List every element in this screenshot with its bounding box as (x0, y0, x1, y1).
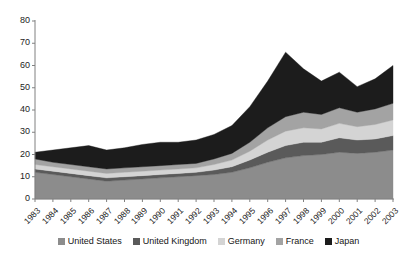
chart-figure: 01020304050607080 1983198419851986198719… (0, 0, 417, 264)
legend-item: United States (58, 236, 122, 246)
legend-swatch-icon (58, 238, 65, 245)
legend-swatch-icon (325, 238, 332, 245)
y-axis-tick-label: 20 (6, 150, 30, 159)
plot-area: 01020304050607080 1983198419851986198719… (0, 0, 417, 212)
stacked-area-chart (0, 0, 417, 212)
legend-swatch-icon (218, 238, 225, 245)
legend-label: United States (68, 236, 122, 246)
legend-swatch-icon (276, 238, 283, 245)
y-axis-tick-label: 10 (6, 172, 30, 181)
legend-swatch-icon (133, 238, 140, 245)
legend-label: France (286, 236, 314, 246)
y-axis-tick-label: 50 (6, 83, 30, 92)
y-axis-tick-label: 60 (6, 61, 30, 70)
legend-label: United Kingdom (143, 236, 207, 246)
y-axis-tick-label: 40 (6, 105, 30, 114)
y-axis-tick-label: 70 (6, 38, 30, 47)
y-axis-tick-label: 30 (6, 127, 30, 136)
legend-item: Japan (325, 236, 360, 246)
legend-label: Japan (335, 236, 360, 246)
legend-item: France (276, 236, 314, 246)
chart-legend: United StatesUnited KingdomGermanyFrance… (0, 236, 417, 246)
legend-item: Germany (218, 236, 265, 246)
legend-label: Germany (228, 236, 265, 246)
y-axis-tick-label: 80 (6, 16, 30, 25)
legend-item: United Kingdom (133, 236, 207, 246)
y-axis-tick-label: 0 (6, 194, 30, 203)
